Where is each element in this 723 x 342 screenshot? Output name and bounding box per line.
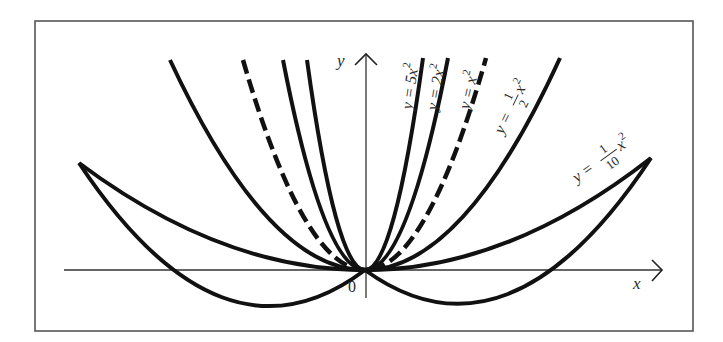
- svg-text:y =: y =: [490, 109, 517, 138]
- y-axis: [355, 54, 377, 298]
- svg-text:x2: x2: [609, 129, 632, 154]
- svg-text:y = x2: y = x2: [451, 68, 482, 113]
- curves: [79, 58, 651, 306]
- curve-half-x-squared: [170, 58, 560, 270]
- parabola-family-diagram: y x 0 y = 5x2 y = 2x2 y = x2 y = 1 2 x2 …: [0, 0, 723, 342]
- svg-text:2: 2: [515, 97, 531, 109]
- y-axis-label: y: [335, 51, 345, 70]
- curve-tenth-x-squared: [79, 158, 651, 306]
- origin-label: 0: [348, 278, 356, 295]
- curve-x-squared-dashed: [243, 58, 486, 270]
- x-axis-label: x: [632, 274, 641, 293]
- figure-frame: [35, 21, 693, 331]
- label-x-squared: y = x2: [451, 68, 482, 113]
- svg-text:y =: y =: [567, 159, 597, 188]
- svg-text:1: 1: [596, 141, 610, 157]
- label-half-x-squared: y = 1 2 x2: [484, 74, 539, 142]
- svg-text:1: 1: [500, 90, 516, 102]
- label-tenth-x-squared: y = 1 10 x2: [564, 128, 638, 194]
